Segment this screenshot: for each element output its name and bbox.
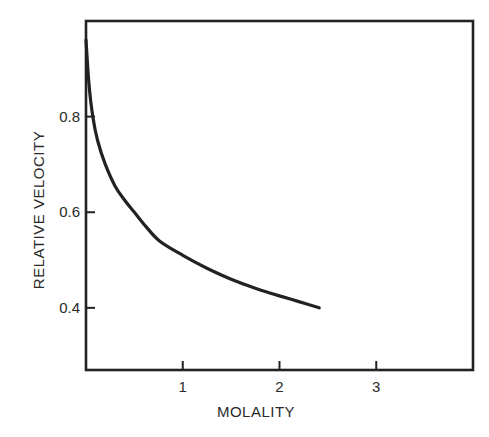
y-tick-label: 0.8: [59, 108, 80, 125]
x-axis-title: MOLALITY: [217, 403, 295, 420]
y-tick-label: 0.4: [59, 299, 80, 316]
plot-frame: [86, 21, 473, 370]
y-tick-label: 0.6: [59, 203, 80, 220]
x-tick-label: 1: [179, 378, 187, 395]
chart: 123 0.40.60.8 MOLALITY RELATIVE VELOCITY: [0, 0, 489, 437]
data-curve: [86, 40, 319, 308]
y-axis-title: RELATIVE VELOCITY: [30, 131, 47, 289]
y-axis-ticks: 0.40.60.8: [59, 108, 95, 316]
x-tick-label: 3: [372, 378, 380, 395]
x-axis-ticks: 123: [179, 361, 381, 395]
x-tick-label: 2: [275, 378, 283, 395]
